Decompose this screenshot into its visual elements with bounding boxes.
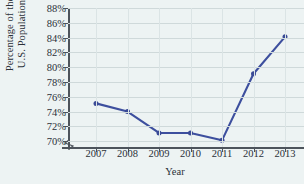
y-tick-mark [63, 8, 68, 9]
y-tick-label: 86% [22, 17, 66, 28]
y-gridline [68, 23, 304, 24]
y-gridline [68, 126, 304, 127]
x-gridline [128, 8, 129, 147]
x-tick-label: 2009 [149, 148, 170, 159]
y-tick-label: 78% [22, 76, 66, 87]
y-gridline [68, 52, 304, 53]
y-tick-label: 80% [22, 62, 66, 73]
y-tick-label: 76% [22, 91, 66, 102]
x-tick-label: 2010 [180, 148, 201, 159]
y-tick-mark [63, 141, 68, 142]
x-gridline [222, 8, 223, 147]
y-tick-mark [63, 38, 68, 39]
y-gridline [68, 82, 304, 83]
x-gridline [96, 8, 97, 147]
y-tick-mark [63, 112, 68, 113]
y-gridline [68, 8, 304, 9]
y-tick-mark [63, 23, 68, 24]
plot-area [68, 8, 304, 147]
x-gridline [254, 8, 255, 147]
x-tick-label: 2013 [275, 148, 296, 159]
x-tick-label: 2007 [86, 148, 107, 159]
y-tick-mark [63, 82, 68, 83]
y-gridline [68, 38, 304, 39]
y-tick-label: 70% [22, 136, 66, 147]
x-axis-title-text: Year [165, 166, 184, 177]
y-tick-mark [63, 67, 68, 68]
x-gridline [159, 8, 160, 147]
y-gridline [68, 112, 304, 113]
x-gridline [191, 8, 192, 147]
y-tick-mark [63, 52, 68, 53]
x-tick-label: 2011 [212, 148, 233, 159]
y-tick-label: 88% [22, 3, 66, 14]
x-tick-label: 2008 [117, 148, 138, 159]
y-tick-label: 72% [22, 121, 66, 132]
y-gridline [68, 141, 304, 142]
x-tick-label: 2012 [243, 148, 264, 159]
line-chart: Percentage of the U.S. Population 70%72%… [0, 0, 304, 184]
y-tick-mark [63, 126, 68, 127]
y-axis-tick-labels: 70%72%74%76%78%80%82%84%86%88% [22, 0, 66, 184]
y-tick-mark [63, 97, 68, 98]
x-gridline [285, 8, 286, 147]
y-gridline [68, 67, 304, 68]
x-axis-title: Year [0, 166, 304, 177]
y-tick-label: 82% [22, 47, 66, 58]
y-tick-label: 74% [22, 106, 66, 117]
y-tick-label: 84% [22, 32, 66, 43]
y-axis-title-line-1: Percentage of the [4, 0, 16, 71]
y-gridline [68, 97, 304, 98]
